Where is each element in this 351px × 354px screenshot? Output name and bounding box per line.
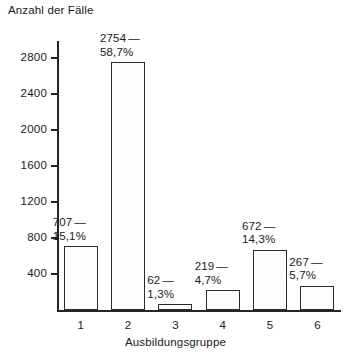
bar-percent-value: 1,3%	[147, 288, 174, 302]
bar-label-dash: —	[160, 274, 174, 288]
bar-value-label: 62—1,3%	[147, 274, 174, 301]
bar	[300, 286, 334, 310]
y-tick-label-wrap: 800	[0, 231, 47, 245]
y-tick-label-wrap: 400	[0, 267, 47, 281]
bar-chart: Anzahl der Fälle 40080012001600200024002…	[0, 0, 351, 354]
bar-percent-value: 5,7%	[289, 269, 322, 283]
x-axis-title: Ausbildungsgruppe	[0, 336, 351, 348]
y-tick-mark	[51, 57, 57, 59]
y-tick-mark	[51, 93, 57, 95]
bar-label-dash: —	[262, 220, 276, 234]
bar-value-label: 219—4,7%	[195, 260, 228, 287]
x-tick-label: 5	[250, 319, 290, 331]
y-tick-label: 1600	[21, 159, 47, 171]
y-tick-label: 2400	[21, 87, 47, 99]
y-tick-label: 2000	[21, 123, 47, 135]
y-tick-label-wrap: 1600	[0, 159, 47, 173]
x-tick-label: 6	[297, 319, 337, 331]
bar-label-dash: —	[309, 256, 323, 270]
y-tick-label: 1200	[21, 195, 47, 207]
bar-label-dash: —	[214, 260, 228, 274]
bar-percent-value: 4,7%	[195, 274, 228, 288]
y-tick-mark	[51, 129, 57, 131]
bar	[111, 62, 145, 310]
y-tick-label: 400	[27, 267, 47, 279]
x-tick-label: 2	[108, 319, 148, 331]
bar-count-value: 2754—	[100, 32, 140, 46]
y-tick-label-wrap: 2800	[0, 51, 47, 65]
bar-count-value: 267—	[289, 256, 322, 270]
y-tick-label-wrap: 2000	[0, 123, 47, 137]
y-tick-mark	[51, 201, 57, 203]
bar-value-label: 672—14,3%	[242, 220, 275, 247]
bar-value-label: 267—5,7%	[289, 256, 322, 283]
bar-count-value: 219—	[195, 260, 228, 274]
bar-value-label: 2754—58,7%	[100, 32, 140, 59]
bar-percent-value: 15,1%	[53, 230, 86, 244]
y-tick-label-wrap: 1200	[0, 195, 47, 209]
x-tick-label: 1	[61, 319, 101, 331]
bar	[64, 246, 98, 310]
y-tick-mark	[51, 165, 57, 167]
bar-label-dash: —	[126, 32, 140, 46]
bar	[253, 250, 287, 310]
bar-label-dash: —	[72, 216, 86, 230]
y-tick-label-wrap: 2400	[0, 87, 47, 101]
bar-count-value: 672—	[242, 220, 275, 234]
bar	[206, 290, 240, 310]
y-tick-label: 2800	[21, 51, 47, 63]
y-axis-line	[57, 41, 59, 311]
bar-value-label: 707—15,1%	[53, 216, 86, 243]
bar-count-value: 707—	[53, 216, 86, 230]
x-tick-label: 4	[203, 319, 243, 331]
y-tick-label: 800	[27, 231, 47, 243]
bar	[158, 304, 192, 310]
bar-percent-value: 58,7%	[100, 46, 140, 60]
y-tick-mark	[51, 273, 57, 275]
x-tick-label: 3	[155, 319, 195, 331]
plot-area: 40080012001600200024002800 707—15,1%2754…	[0, 0, 351, 354]
x-axis-line	[57, 310, 341, 312]
bar-count-value: 62—	[147, 274, 174, 288]
bar-percent-value: 14,3%	[242, 233, 275, 247]
